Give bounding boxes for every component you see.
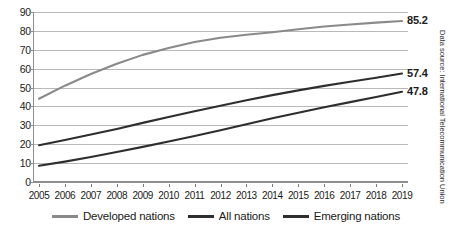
- x-tick-mark: [376, 184, 377, 187]
- x-tick-label: 2012: [210, 190, 231, 201]
- x-tick-mark: [324, 184, 325, 187]
- legend-label: Developed nations: [83, 210, 175, 222]
- x-tick-mark: [272, 184, 273, 187]
- y-tick-label: 20: [0, 139, 31, 149]
- legend-item: All nations: [188, 210, 270, 222]
- x-axis-ticks: 2005200620072008200920102011201220132014…: [0, 184, 452, 204]
- legend-item: Emerging nations: [283, 210, 400, 222]
- y-tick-label: 50: [0, 83, 31, 93]
- x-tick-mark: [169, 184, 170, 187]
- x-tick-label: 2017: [340, 190, 361, 201]
- source-credit-text: Data source: International Telecommunica…: [438, 30, 446, 204]
- legend-label: Emerging nations: [314, 210, 400, 222]
- x-tick-label: 2006: [55, 190, 76, 201]
- x-tick-label: 2016: [314, 190, 335, 201]
- series-line: [39, 74, 402, 146]
- x-tick-label: 2007: [81, 190, 102, 201]
- x-tick-mark: [65, 184, 66, 187]
- x-tick-label: 2019: [392, 190, 413, 201]
- plot-area: [33, 12, 408, 182]
- legend-item: Developed nations: [52, 210, 175, 222]
- x-tick-mark: [117, 184, 118, 187]
- source-credit-container: Data source: International Telecommunica…: [434, 30, 446, 210]
- y-tick-label: 60: [0, 64, 31, 74]
- x-tick-label: 2018: [366, 190, 387, 201]
- cropped-title-remnant: [0, 0, 452, 5]
- x-tick-mark: [221, 184, 222, 187]
- legend-swatch: [52, 215, 78, 218]
- x-tick-label: 2010: [158, 190, 179, 201]
- gridline: [33, 182, 408, 183]
- series-end-label: 57.4: [407, 68, 428, 79]
- series-line: [39, 92, 402, 166]
- y-tick-label: 70: [0, 45, 31, 55]
- x-tick-mark: [39, 184, 40, 187]
- legend-swatch: [283, 215, 309, 218]
- series-end-label: 47.8: [407, 86, 428, 97]
- series-lines: [33, 12, 408, 182]
- x-tick-label: 2008: [106, 190, 127, 201]
- x-tick-mark: [298, 184, 299, 187]
- legend-label: All nations: [219, 210, 270, 222]
- x-tick-mark: [143, 184, 144, 187]
- y-tick-label: 80: [0, 26, 31, 36]
- series-line: [39, 21, 402, 99]
- x-tick-label: 2013: [236, 190, 257, 201]
- series-end-label: 85.2: [407, 15, 428, 26]
- x-tick-mark: [402, 184, 403, 187]
- x-tick-label: 2009: [132, 190, 153, 201]
- x-tick-mark: [350, 184, 351, 187]
- x-tick-label: 2011: [185, 190, 205, 201]
- line-chart: 0102030405060708090 20052006200720082009…: [0, 0, 452, 236]
- y-tick-label: 90: [0, 7, 31, 17]
- x-tick-label: 2015: [288, 190, 309, 201]
- x-tick-mark: [195, 184, 196, 187]
- x-tick-mark: [91, 184, 92, 187]
- x-tick-label: 2014: [262, 190, 283, 201]
- x-tick-mark: [246, 184, 247, 187]
- legend-swatch: [188, 215, 214, 218]
- y-tick-label: 30: [0, 120, 31, 130]
- chart-legend: Developed nationsAll nationsEmerging nat…: [0, 210, 452, 222]
- y-tick-label: 40: [0, 101, 31, 111]
- y-tick-label: 10: [0, 158, 31, 168]
- x-tick-label: 2005: [29, 190, 50, 201]
